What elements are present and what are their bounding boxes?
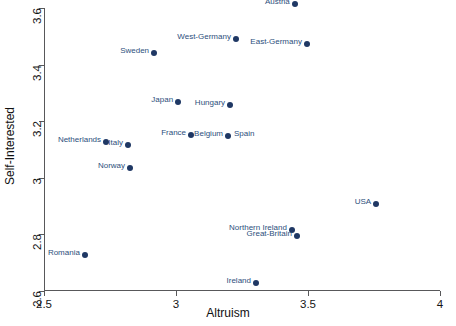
data-point-label: Ireland: [227, 275, 253, 284]
data-point-label: Spain: [231, 129, 254, 138]
data-point-label: Norway: [98, 160, 127, 169]
y-tick-label: 3.4: [31, 65, 43, 81]
data-point-label: France: [161, 128, 188, 137]
data-point-label: West-Germany: [177, 32, 233, 41]
data-point-label: East-Germany: [250, 36, 304, 45]
data-point-label: Hungary: [195, 98, 227, 107]
y-axis-title: Self-Interested: [3, 106, 17, 184]
y-axis-spine: [44, 8, 45, 291]
data-point[interactable]: [304, 41, 310, 47]
data-point[interactable]: [233, 36, 239, 42]
y-tick-label: 3.6: [31, 8, 43, 24]
data-point[interactable]: [294, 233, 300, 239]
data-point-label: USA: [355, 197, 373, 206]
x-tick-mark: [176, 291, 177, 296]
data-point-label: Austria: [265, 0, 292, 6]
y-axis-title-container: Self-Interested: [2, 0, 18, 291]
data-point[interactable]: [373, 201, 379, 207]
data-point-label: Sweden: [120, 45, 151, 54]
data-point-label: Belgium: [194, 129, 225, 138]
data-point[interactable]: [292, 1, 298, 7]
y-tick-label: 3.2: [31, 121, 43, 137]
data-point[interactable]: [82, 252, 88, 258]
y-tick-label: 2.8: [31, 234, 43, 250]
y-tick-label: 3: [31, 178, 43, 184]
x-tick-mark: [44, 291, 45, 296]
data-point-label: Netherlands: [58, 134, 103, 143]
data-point-label: Italy: [108, 137, 125, 146]
data-point[interactable]: [253, 280, 259, 286]
x-axis-title: Altruism: [0, 306, 456, 320]
data-point-label: Romania: [48, 247, 82, 256]
data-point-label: Great-Britain: [247, 228, 294, 237]
data-point[interactable]: [227, 102, 233, 108]
data-point-label: Japan: [151, 94, 175, 103]
x-tick-mark: [308, 291, 309, 296]
data-point[interactable]: [151, 50, 157, 56]
plot-area: 2.62.833.23.43.6 2.533.54 FinlandAustria…: [44, 8, 440, 291]
data-point[interactable]: [125, 142, 131, 148]
x-tick-mark: [440, 291, 441, 296]
data-point[interactable]: [127, 165, 133, 171]
scatter-chart-figure: Self-Interested 2.62.833.23.43.6 2.533.5…: [0, 0, 456, 326]
x-axis-spine: [44, 290, 440, 291]
data-point[interactable]: [175, 99, 181, 105]
